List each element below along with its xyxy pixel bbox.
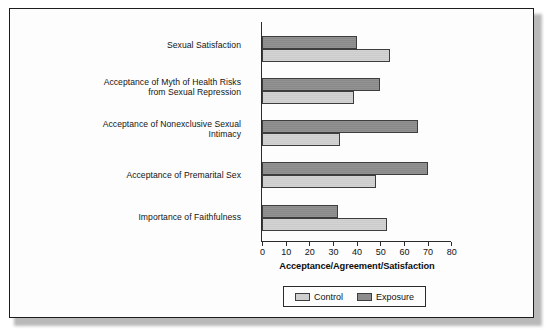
chart-legend: Control Exposure [283, 286, 426, 307]
x-tick-label-30: 30 [328, 247, 338, 257]
category-label-line: Sexual Satisfaction [31, 40, 241, 50]
x-tick-label-60: 60 [399, 247, 409, 257]
x-tick-70 [428, 242, 429, 246]
category-label-sexual-satisfaction: Sexual Satisfaction [31, 40, 241, 50]
category-label-line: from Sexual Repression [31, 87, 241, 97]
plot-area: Sexual Satisfaction Acceptance of Myth o… [10, 9, 533, 317]
category-label-line: Importance of Faithfulness [31, 212, 241, 222]
bar-control-importance-faithfulness [262, 218, 387, 231]
bar-control-nonexclusive-intimacy [262, 133, 340, 146]
x-tick-60 [404, 242, 405, 246]
bar-control-sexual-satisfaction [262, 49, 390, 62]
x-tick-10 [286, 242, 287, 246]
category-label-nonexclusive-intimacy: Acceptance of Nonexclusive Sexual Intima… [31, 119, 241, 140]
bar-control-premarital-sex [262, 175, 376, 188]
legend-entry-control: Control [295, 292, 343, 302]
bar-exposure-nonexclusive-intimacy [262, 120, 418, 133]
x-tick-80 [451, 242, 452, 246]
x-tick-label-50: 50 [376, 247, 386, 257]
category-label-line: Intimacy [31, 129, 241, 139]
legend-label-control: Control [314, 292, 343, 302]
category-label-line: Acceptance of Premarital Sex [31, 170, 241, 180]
figure-root: Sexual Satisfaction Acceptance of Myth o… [0, 0, 548, 332]
bar-exposure-sexual-satisfaction [262, 36, 357, 49]
x-tick-40 [357, 242, 358, 246]
legend-entry-exposure: Exposure [357, 292, 414, 302]
bar-exposure-myth-health-risks [262, 78, 380, 91]
legend-label-exposure: Exposure [376, 292, 414, 302]
chart-frame: Sexual Satisfaction Acceptance of Myth o… [9, 8, 534, 318]
x-tick-label-70: 70 [423, 247, 433, 257]
category-label-importance-faithfulness: Importance of Faithfulness [31, 212, 241, 222]
legend-swatch-control-icon [295, 293, 310, 301]
x-tick-30 [333, 242, 334, 246]
x-tick-label-40: 40 [352, 247, 362, 257]
category-label-line: Acceptance of Myth of Health Risks [31, 77, 241, 87]
category-label-line: Acceptance of Nonexclusive Sexual [31, 119, 241, 129]
legend-swatch-exposure-icon [357, 293, 372, 301]
category-label-premarital-sex: Acceptance of Premarital Sex [31, 170, 241, 180]
category-label-myth-health-risks: Acceptance of Myth of Health Risks from … [31, 77, 241, 98]
x-tick-50 [380, 242, 381, 246]
bar-control-myth-health-risks [262, 91, 354, 104]
bar-exposure-importance-faithfulness [262, 205, 338, 218]
bar-exposure-premarital-sex [262, 162, 428, 175]
x-tick-label-0: 0 [260, 247, 265, 257]
x-tick-label-80: 80 [447, 247, 457, 257]
x-tick-20 [309, 242, 310, 246]
x-tick-0 [262, 242, 263, 246]
x-tick-label-10: 10 [281, 247, 291, 257]
x-axis-title: Acceptance/Agreement/Satisfaction [261, 261, 453, 271]
x-tick-label-20: 20 [305, 247, 315, 257]
